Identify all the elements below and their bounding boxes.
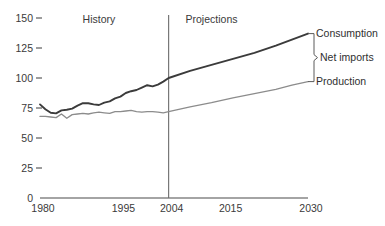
annotation-history: History bbox=[83, 13, 116, 25]
series-label-production: Production bbox=[316, 75, 366, 87]
chart-container: 0255075100125150 19801995200420152030 Hi… bbox=[0, 0, 385, 226]
annotation-projections: Projections bbox=[186, 13, 238, 25]
series-label-consumption: Consumption bbox=[316, 27, 378, 39]
y-tick-label: 125 bbox=[15, 42, 33, 54]
y-tick-label: 100 bbox=[15, 72, 33, 84]
y-tick-label: 150 bbox=[15, 12, 33, 24]
series-line-production bbox=[40, 82, 308, 119]
y-tick-label: 50 bbox=[21, 132, 33, 144]
endpoint-label-group: ConsumptionNet importsProduction bbox=[308, 27, 378, 87]
x-tick-label: 2004 bbox=[160, 202, 184, 214]
line-chart: 0255075100125150 19801995200420152030 Hi… bbox=[0, 0, 385, 226]
series-label-net-imports: Net imports bbox=[320, 51, 374, 63]
series-line-consumption bbox=[40, 34, 308, 114]
x-tick-label: 2030 bbox=[299, 202, 323, 214]
x-tick-label: 1995 bbox=[112, 202, 136, 214]
x-tick-label: 1980 bbox=[31, 202, 55, 214]
y-tick-label: 75 bbox=[21, 102, 33, 114]
annotation-group: HistoryProjections bbox=[83, 13, 238, 25]
x-axis-tick-group: 19801995200420152030 bbox=[31, 202, 323, 214]
y-axis-tick-group: 0255075100125150 bbox=[15, 12, 42, 204]
x-tick-label: 2015 bbox=[219, 202, 243, 214]
y-tick-label: 25 bbox=[21, 162, 33, 174]
